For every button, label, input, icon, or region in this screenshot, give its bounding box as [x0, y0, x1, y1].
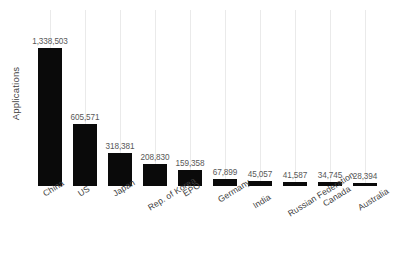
bar-group-russian-federation[interactable]: 41,587: [283, 10, 307, 186]
x-axis-label-india: India: [251, 192, 273, 211]
bar-group-germany[interactable]: 67,899: [213, 10, 237, 186]
bar-group-canada[interactable]: 34,745: [318, 10, 342, 186]
bar[interactable]: [38, 48, 62, 186]
bar-value-label: 45,057: [248, 170, 272, 179]
bar-value-label: 318,381: [106, 142, 135, 151]
bar-value-label: 159,358: [176, 159, 205, 168]
bar-group-india[interactable]: 45,057: [248, 10, 272, 186]
x-axis-label-group: ChinaUSJapanRep. of KoreaEPOGermanyIndia…: [28, 186, 410, 268]
bar-value-label: 41,587: [283, 171, 307, 180]
bar-value-label: 605,571: [71, 113, 100, 122]
bar-group-australia[interactable]: 28,394: [353, 10, 377, 186]
bar-group-japan[interactable]: 318,381: [108, 10, 132, 186]
bar-value-label: 67,899: [213, 168, 237, 177]
bar-value-label: 1,338,503: [32, 37, 68, 46]
bar-group-us[interactable]: 605,571: [73, 10, 97, 186]
plot-area: 1,338,503605,571318,381208,830159,35867,…: [28, 10, 410, 186]
bar-chart: Applications 1,338,503605,571318,381208,…: [0, 0, 410, 268]
bar[interactable]: [73, 124, 97, 186]
bar-group-epo[interactable]: 159,358: [178, 10, 202, 186]
bar-value-label: 208,830: [141, 153, 170, 162]
y-axis-title-label: Applications: [11, 66, 22, 120]
bar[interactable]: [143, 164, 167, 186]
bar-value-label: 28,394: [353, 172, 377, 181]
bar-group-rep-of-korea[interactable]: 208,830: [143, 10, 167, 186]
x-axis-label-australia: Australia: [356, 186, 390, 213]
y-axis-title: Applications: [6, 0, 26, 186]
x-axis-label-us: US: [76, 184, 92, 199]
bar-group-china[interactable]: 1,338,503: [38, 10, 62, 186]
